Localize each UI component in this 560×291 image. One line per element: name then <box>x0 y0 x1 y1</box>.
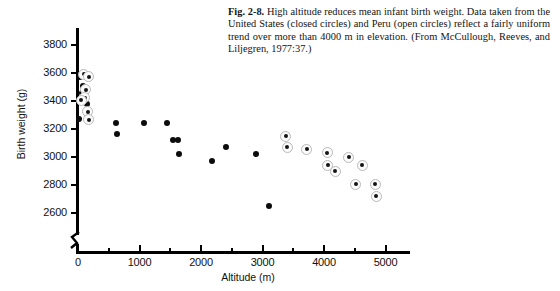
y-axis-tick-label: 3800 <box>27 38 67 50</box>
data-point-open <box>83 71 94 82</box>
data-point-open <box>343 152 354 163</box>
x-axis-tick-label: 0 <box>53 256 103 268</box>
x-axis-minor-tick <box>354 248 356 252</box>
y-axis-line <box>76 28 79 235</box>
data-point-open <box>350 179 361 190</box>
y-axis-tick-3600 <box>71 72 78 74</box>
data-point-closed <box>253 151 259 157</box>
y-axis-tick-2600 <box>71 212 78 214</box>
data-point-open <box>76 95 87 106</box>
data-point-open <box>330 166 341 177</box>
y-axis-title: Birth weight (g) <box>15 69 27 179</box>
y-axis-tick-2800 <box>71 184 78 186</box>
data-point-closed <box>175 137 181 143</box>
y-axis-tick-3800 <box>71 44 78 46</box>
y-axis-tick-label: 3400 <box>27 94 67 106</box>
x-axis-tick-label: 3000 <box>238 256 288 268</box>
data-point-closed <box>164 120 170 126</box>
x-axis-tick-5000 <box>385 245 387 252</box>
x-axis-tick-label: 1000 <box>115 256 165 268</box>
data-point-closed <box>76 116 82 122</box>
data-point-open <box>357 160 368 171</box>
data-point-open <box>370 179 381 190</box>
data-point-closed <box>223 144 229 150</box>
figure-root: Fig. 2-8. High altitude reduces mean inf… <box>0 0 560 291</box>
x-axis-title: Altitude (m) <box>178 271 318 283</box>
y-axis-tick-label: 3200 <box>27 122 67 134</box>
x-axis-tick-2000 <box>200 245 202 252</box>
x-axis-minor-tick <box>108 248 110 252</box>
data-point-open <box>301 144 312 155</box>
scatter-plot: 2600280030003200340036003800 01000200030… <box>0 0 560 291</box>
data-point-closed <box>113 120 119 126</box>
data-point-open <box>280 131 291 142</box>
x-axis-tick-4000 <box>323 245 325 252</box>
x-axis-minor-tick <box>231 248 233 252</box>
data-point-closed <box>176 151 182 157</box>
y-axis-tick-label: 3000 <box>27 150 67 162</box>
x-axis-line <box>76 251 410 254</box>
y-axis-tick-3000 <box>71 156 78 158</box>
data-point-open <box>322 147 333 158</box>
x-axis-tick-0 <box>77 245 79 252</box>
x-axis-minor-tick <box>292 248 294 252</box>
data-point-closed <box>209 158 215 164</box>
y-axis-tick-3200 <box>71 128 78 130</box>
data-point-open <box>83 114 94 125</box>
data-point-closed <box>114 131 120 137</box>
y-axis-tick-label: 3600 <box>27 66 67 78</box>
data-point-open <box>371 191 382 202</box>
x-axis-tick-3000 <box>262 245 264 252</box>
x-axis-tick-label: 2000 <box>176 256 226 268</box>
data-point-closed <box>266 203 272 209</box>
y-axis-tick-label: 2600 <box>27 206 67 218</box>
y-axis-tick-label: 2800 <box>27 178 67 190</box>
data-point-open <box>282 142 293 153</box>
x-axis-tick-label: 4000 <box>299 256 349 268</box>
x-axis-tick-1000 <box>139 245 141 252</box>
data-point-closed <box>141 120 147 126</box>
x-axis-tick-label: 5000 <box>361 256 411 268</box>
x-axis-minor-tick <box>169 248 171 252</box>
